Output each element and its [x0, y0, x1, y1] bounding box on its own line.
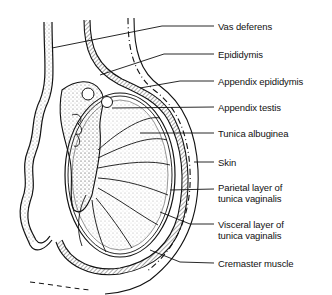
label-parietal-layer: Parietal layer of tunica vaginalis [218, 182, 282, 204]
testis-anatomy-diagram [0, 0, 332, 295]
label-skin: Skin [218, 157, 236, 168]
label-epididymis: Epididymis [218, 49, 263, 60]
label-tunica-albuginea: Tunica albuginea [218, 128, 288, 139]
label-cremaster-muscle: Cremaster muscle [218, 258, 293, 269]
label-appendix-testis: Appendix testis [218, 102, 281, 113]
label-vas-deferens: Vas deferens [218, 21, 272, 32]
spermatic-cord [20, 22, 53, 250]
bottom-dashed-line [30, 282, 90, 290]
label-visceral-layer: Visceral layer of tunica vaginalis [218, 219, 284, 241]
label-appendix-epididymis: Appendix epididymis [218, 76, 303, 87]
